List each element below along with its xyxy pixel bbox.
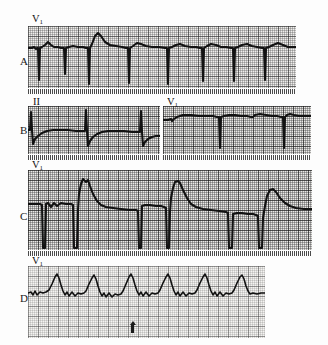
lead-label-c-v1-sub: 1 xyxy=(40,164,44,172)
ecg-trace-d xyxy=(28,266,265,338)
ecg-trace-c xyxy=(28,170,312,250)
panel-label-a: A xyxy=(20,55,28,67)
lead-label-d-v1: V1 xyxy=(32,256,43,267)
timing-marks-b-left xyxy=(28,155,160,160)
timing-marks-c xyxy=(28,251,312,256)
lead-label-a-v1: V1 xyxy=(32,14,43,25)
timing-marks-a xyxy=(28,89,296,94)
timing-arrow-icon xyxy=(131,324,134,333)
timing-marks-b-right xyxy=(163,155,311,160)
ecg-strip-b-lead-ii xyxy=(28,106,160,154)
panel-label-d: D xyxy=(20,292,28,304)
lead-label-b-v1: V1 xyxy=(167,97,178,108)
lead-label-a-v1-text: V xyxy=(32,13,40,24)
lead-label-d-v1-text: V xyxy=(32,255,40,266)
ecg-trace-a xyxy=(28,26,296,88)
lead-label-a-v1-sub: 1 xyxy=(40,18,44,26)
ecg-figure: A V1 B II V1 C V1 D V1 xyxy=(0,0,328,345)
ecg-strip-c xyxy=(28,170,312,250)
lead-label-b-ii-text: II xyxy=(33,96,40,107)
lead-label-d-v1-sub: 1 xyxy=(40,260,44,268)
ecg-strip-d xyxy=(28,266,265,338)
ecg-trace-b-lead-v1 xyxy=(163,106,311,154)
lead-label-b-v1-text: V xyxy=(167,96,175,107)
lead-label-b-ii: II xyxy=(33,97,40,108)
lead-label-b-v1-sub: 1 xyxy=(175,101,179,109)
lead-label-c-v1-text: V xyxy=(32,159,40,170)
panel-label-b: B xyxy=(20,124,27,136)
panel-label-c: C xyxy=(20,210,27,222)
ecg-strip-b-lead-v1 xyxy=(163,106,311,154)
lead-label-c-v1: V1 xyxy=(32,160,43,171)
ecg-strip-a xyxy=(28,26,296,88)
ecg-trace-b-lead-ii xyxy=(28,106,160,154)
